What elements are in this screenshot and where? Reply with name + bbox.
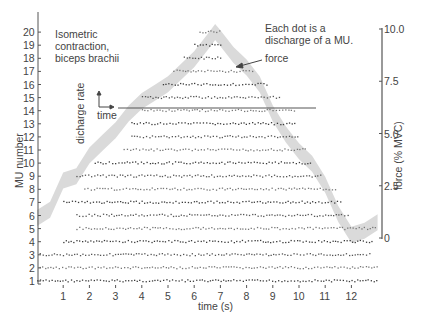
title-line-2: contraction, — [55, 40, 119, 52]
y-tick-label: 3 — [29, 249, 35, 261]
y-tick-label: 18 — [23, 52, 35, 64]
y2-tick-label: 10.0 — [384, 23, 404, 35]
inset-x-label: time — [97, 109, 117, 121]
y-tick-label: 14 — [23, 105, 35, 117]
x-tick-label: 2 — [86, 290, 92, 302]
y-tick-label: 9 — [29, 170, 35, 182]
x-tick-label: 1 — [60, 290, 66, 302]
x-axis-label: time (s) — [198, 300, 233, 312]
y-tick-label: 11 — [23, 144, 34, 156]
y-tick-label: 16 — [23, 79, 35, 91]
chart-annotation-title: Isometric contraction, biceps brachii — [55, 28, 119, 64]
y-tick-label: 7 — [29, 196, 35, 208]
x-tick-label: 3 — [113, 290, 119, 302]
y-tick-label: 10 — [23, 157, 35, 169]
x-tick-label: 7 — [217, 290, 223, 302]
chart-annotation-note: Each dot is a discharge of a MU. — [265, 22, 353, 46]
y-tick-label: 20 — [23, 26, 35, 38]
note-line-1: Each dot is a — [265, 22, 353, 34]
x-tick-label: 10 — [293, 290, 305, 302]
y-tick-label: 12 — [23, 131, 35, 143]
x-tick-label: 11 — [319, 290, 330, 302]
y-tick-label: 6 — [29, 210, 35, 222]
x-tick-label: 5 — [165, 290, 171, 302]
y-tick-label: 2 — [29, 262, 35, 274]
y-tick-label: 19 — [23, 39, 35, 51]
inset-axes-icon — [97, 91, 114, 109]
y-tick-label: 4 — [29, 236, 35, 248]
inset-y-label: dicharge rate — [74, 83, 86, 144]
x-tick-label: 9 — [270, 290, 276, 302]
x-tick-label: 12 — [345, 290, 357, 302]
y-tick-label: 8 — [29, 183, 35, 195]
y-tick-label: 13 — [23, 118, 35, 130]
x-tick-label: 4 — [139, 290, 145, 302]
y2-tick-label: 0 — [384, 232, 390, 244]
y2-tick-label: 5.0 — [384, 128, 399, 140]
y-tick-label: 5 — [29, 223, 35, 235]
y-tick-label: 1 — [29, 275, 35, 287]
x-tick-label: 8 — [244, 290, 250, 302]
force-annotation: force — [265, 52, 288, 64]
title-line-3: biceps brachii — [55, 52, 119, 64]
y-tick-label: 15 — [23, 92, 35, 104]
y2-tick-label: 2.5 — [384, 180, 399, 192]
note-line-2: discharge of a MU. — [265, 34, 353, 46]
title-line-1: Isometric — [55, 28, 119, 40]
y-tick-label: 17 — [23, 65, 35, 77]
x-tick-label: 6 — [191, 290, 197, 302]
y2-tick-label: 7.5 — [384, 75, 399, 87]
